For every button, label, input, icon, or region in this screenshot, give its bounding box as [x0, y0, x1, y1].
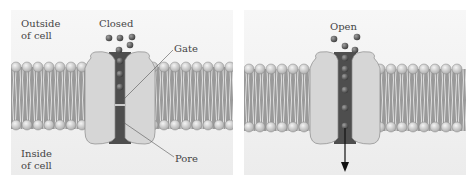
inside-label-line2: of cell [21, 160, 52, 172]
lipid-bilayer-left [11, 62, 87, 130]
open-channel-illustration [244, 10, 466, 175]
closed-channel-panel: Outside of cell Closed Gate Inside of ce… [11, 10, 233, 175]
outside-label-line1: Outside [21, 18, 60, 30]
gate-label: Gate [174, 43, 198, 55]
inside-label-line1: Inside [21, 148, 52, 160]
channel-protein [85, 52, 155, 144]
lipid-bilayer-right [375, 64, 466, 132]
lipid-bilayer-right [148, 62, 233, 130]
closed-title: Closed [99, 18, 133, 30]
inside-of-cell-label: Inside of cell [21, 148, 52, 172]
open-channel-panel: Open [244, 10, 466, 175]
lipid-bilayer-left [244, 64, 314, 132]
pore-label: Pore [175, 153, 198, 165]
outside-label-line2: of cell [21, 30, 60, 42]
outside-of-cell-label: Outside of cell [21, 18, 60, 42]
open-title: Open [330, 21, 357, 33]
